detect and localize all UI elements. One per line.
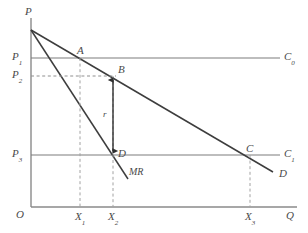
quantity-tick-x3-base: X (245, 210, 252, 222)
price-tick-p2-base: P (12, 68, 19, 80)
quantity-tick-x2: X2 (108, 211, 118, 225)
annotation-label-r: r (103, 110, 107, 119)
quantity-tick-x1-base: X (75, 210, 82, 222)
curve-label-d: D (279, 168, 287, 179)
curve-label-c0-sub: 0 (291, 59, 295, 67)
point-label-d: D (118, 148, 126, 159)
quantity-tick-x2-base: X (108, 210, 115, 222)
x-axis-label: Q (286, 210, 294, 221)
quantity-tick-x3-sub: 3 (252, 219, 256, 227)
point-label-b: B (118, 64, 125, 75)
demand-curve (31, 30, 273, 172)
curve-label-c1-sub: 1 (291, 156, 295, 164)
price-tick-p3-sub: 3 (19, 156, 23, 164)
curve-label-c0: C0 (284, 51, 295, 65)
price-tick-p3: P3 (12, 148, 22, 162)
quantity-tick-x1-sub: 1 (82, 219, 86, 227)
point-label-a: A (77, 45, 84, 56)
y-axis-label: P (25, 6, 32, 17)
quantity-tick-x3: X3 (245, 211, 255, 225)
economics-diagram: P Q O P1 P2 P3 X1 X2 X3 C0 C1 D MR A B C… (0, 0, 308, 233)
price-tick-p1-sub: 1 (19, 59, 23, 67)
curve-label-c1: C1 (284, 148, 295, 162)
quantity-tick-x2-sub: 2 (115, 219, 119, 227)
price-tick-p1: P1 (12, 51, 22, 65)
price-tick-p1-base: P (12, 50, 19, 62)
point-label-c: C (246, 143, 253, 154)
diagram-canvas (0, 0, 308, 233)
price-tick-p3-base: P (12, 147, 19, 159)
price-tick-p2: P2 (12, 69, 22, 83)
curve-label-mr: MR (129, 167, 143, 177)
price-tick-p2-sub: 2 (19, 77, 23, 85)
origin-label: O (16, 209, 24, 220)
quantity-tick-x1: X1 (75, 211, 85, 225)
